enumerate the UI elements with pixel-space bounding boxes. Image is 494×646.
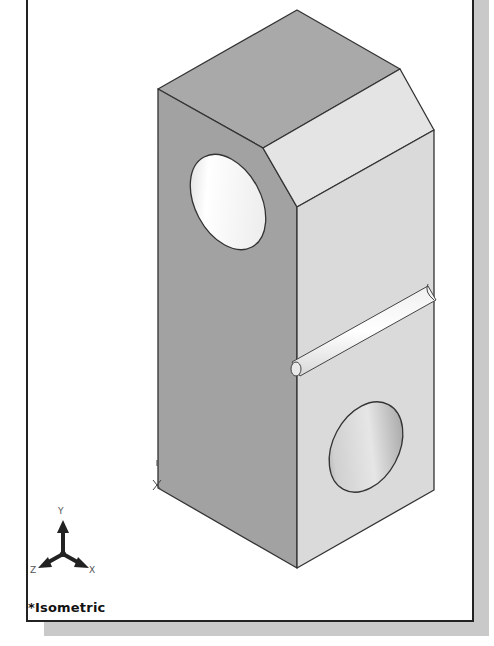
triad-x-label: X [89,565,95,575]
triad-z-label: Z [30,565,36,575]
triad-y-label: Y [58,506,64,516]
groove-end-left [291,362,301,376]
model-scene[interactable] [0,0,494,646]
view-orientation-label: *Isometric [28,600,105,615]
coordinate-triad-icon [38,520,89,568]
